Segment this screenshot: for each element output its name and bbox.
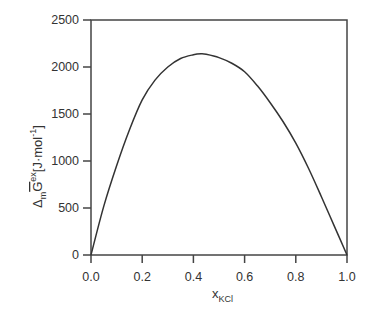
x-tick-label: 0.4 bbox=[185, 270, 202, 284]
chart: 05001000150020002500 0.00.20.40.60.81.0 … bbox=[0, 0, 374, 314]
y-axis-ticks: 05001000150020002500 bbox=[51, 13, 91, 262]
x-tick-label: 1.0 bbox=[338, 270, 355, 284]
x-tick-label: 0.2 bbox=[134, 270, 151, 284]
data-line bbox=[91, 54, 347, 255]
y-tick-label: 1500 bbox=[51, 107, 79, 121]
x-axis-ticks: 0.00.20.40.60.81.0 bbox=[82, 255, 355, 284]
x-tick-label: 0.0 bbox=[82, 270, 99, 284]
y-tick-label: 2000 bbox=[51, 60, 79, 74]
y-tick-label: 500 bbox=[58, 201, 79, 215]
y-tick-label: 1000 bbox=[51, 154, 79, 168]
x-tick-label: 0.6 bbox=[236, 270, 253, 284]
x-tick-label: 0.8 bbox=[287, 270, 304, 284]
plot-frame bbox=[91, 20, 347, 255]
y-tick-label: 0 bbox=[72, 248, 79, 262]
y-axis-label: ΔmGex[J·mol-1] bbox=[28, 125, 48, 208]
y-tick-label: 2500 bbox=[51, 13, 79, 27]
x-axis-label: xKCl bbox=[212, 286, 233, 304]
